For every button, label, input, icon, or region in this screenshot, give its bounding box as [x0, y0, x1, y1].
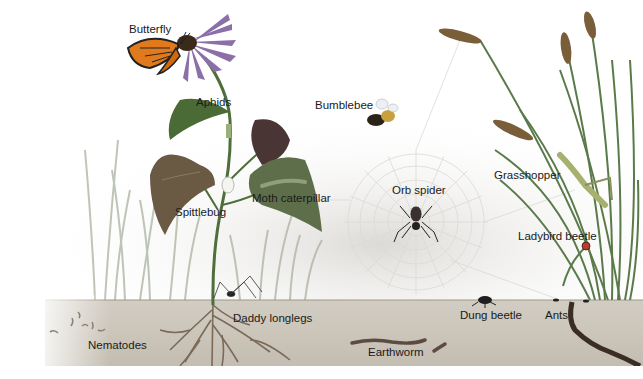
label-daddy-longlegs: Daddy longlegs	[233, 313, 312, 325]
ecosystem-diagram: Butterfly Aphids Bumblebee Spittlebug Mo…	[0, 0, 643, 379]
label-orb-spider: Orb spider	[392, 185, 446, 197]
label-butterfly: Butterfly	[129, 24, 171, 36]
label-moth-caterpillar: Moth caterpillar	[252, 193, 331, 205]
label-earthworm: Earthworm	[368, 347, 424, 359]
label-ants: Ants	[545, 310, 568, 322]
flower	[177, 14, 236, 82]
label-nematodes: Nematodes	[88, 340, 147, 352]
label-spittlebug: Spittlebug	[175, 207, 226, 219]
label-grasshopper: Grasshopper	[494, 170, 560, 182]
label-ladybird-beetle: Ladybird beetle	[518, 231, 597, 243]
label-dung-beetle: Dung beetle	[460, 310, 522, 322]
illustration	[0, 0, 643, 379]
label-aphids: Aphids	[196, 97, 231, 109]
label-bumblebee: Bumblebee	[315, 100, 373, 112]
soil-layer	[30, 295, 643, 370]
